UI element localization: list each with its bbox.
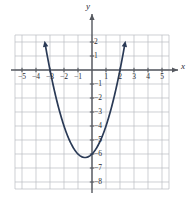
x-tick-label: −2 (57, 73, 71, 81)
x-tick-label: 4 (141, 73, 155, 81)
y-axis-label: y (86, 2, 90, 11)
y-tick-label: −4 (94, 122, 108, 130)
x-tick-label: 2 (113, 73, 127, 81)
y-tick-label: −8 (94, 178, 108, 186)
x-tick-label: −1 (71, 73, 85, 81)
x-tick-label: 3 (127, 73, 141, 81)
y-tick-label: −5 (94, 136, 108, 144)
graph-figure: y x −5−4−3−2−112345 21−1−2−3−4−5−6−7−8 (0, 0, 195, 200)
x-axis-label: x (181, 62, 185, 71)
x-tick-label: −4 (29, 73, 43, 81)
y-tick-label: −6 (94, 150, 108, 158)
x-tick-label: −5 (15, 73, 29, 81)
y-tick-label: 2 (94, 38, 108, 46)
x-tick-label: −3 (43, 73, 57, 81)
y-tick-label: 1 (94, 52, 108, 60)
y-tick-label: −1 (94, 80, 108, 88)
y-tick-label: −2 (94, 94, 108, 102)
y-tick-label: −7 (94, 164, 108, 172)
x-tick-label: 5 (155, 73, 169, 81)
y-tick-label: −3 (94, 108, 108, 116)
